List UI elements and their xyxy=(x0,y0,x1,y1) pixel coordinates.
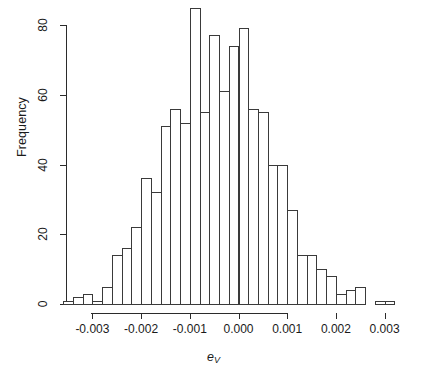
x-tick--0.002 xyxy=(141,313,142,319)
histogram-bar xyxy=(316,269,327,305)
histogram-bar xyxy=(355,287,366,305)
histogram-bar xyxy=(209,35,220,305)
x-axis-label: eV xyxy=(0,350,427,365)
histogram-bar xyxy=(161,126,172,305)
x-tick-0.003 xyxy=(385,313,386,319)
histogram-bar xyxy=(239,28,250,305)
histogram-bar xyxy=(102,287,113,305)
histogram-bar xyxy=(141,178,152,305)
y-tick-20 xyxy=(60,234,66,235)
histogram-bar xyxy=(73,297,84,305)
x-tick-label: 0.003 xyxy=(355,322,415,336)
histogram-bar xyxy=(346,290,357,305)
y-tick-label: 60 xyxy=(36,82,50,108)
histogram-bar xyxy=(307,255,318,305)
histogram-bar xyxy=(326,276,337,305)
y-tick-label: 40 xyxy=(36,152,50,178)
histogram-bar xyxy=(258,112,269,305)
x-tick-0.002 xyxy=(336,313,337,319)
histogram-bar xyxy=(170,109,181,305)
histogram-bar xyxy=(151,192,162,305)
y-tick-label-wrap: 0 xyxy=(30,297,56,311)
histogram-bar xyxy=(131,227,142,305)
histogram-bar xyxy=(297,255,308,305)
y-tick-0 xyxy=(60,304,66,305)
histogram-bar xyxy=(200,112,211,305)
y-tick-60 xyxy=(60,95,66,96)
x-tick-0.000 xyxy=(239,313,240,319)
histogram-bar xyxy=(385,301,396,305)
histogram-bar xyxy=(277,165,288,306)
histogram-bar xyxy=(112,255,123,305)
x-axis-label-subscript: V xyxy=(214,355,220,365)
histogram-figure: Frequency 020406080 -0.003-0.002-0.0010.… xyxy=(0,0,427,382)
x-tick--0.003 xyxy=(92,313,93,319)
y-tick-40 xyxy=(60,165,66,166)
y-tick-label-wrap: 40 xyxy=(30,158,56,172)
y-tick-80 xyxy=(60,25,66,26)
x-tick-0.001 xyxy=(287,313,288,319)
y-axis-line xyxy=(66,25,67,305)
y-tick-label: 20 xyxy=(36,221,50,247)
histogram-bar xyxy=(248,109,259,305)
y-axis-label: Frequency xyxy=(15,67,29,187)
x-axis-label-base: e xyxy=(207,350,214,364)
histogram-bar xyxy=(122,248,133,305)
histogram-bar xyxy=(83,294,94,305)
histogram-bar xyxy=(336,294,347,305)
histogram-bar xyxy=(180,123,191,305)
histogram-bar xyxy=(287,210,298,305)
y-tick-label-wrap: 20 xyxy=(30,227,56,241)
y-tick-label: 0 xyxy=(36,291,50,317)
histogram-bar xyxy=(268,165,279,306)
histogram-bar xyxy=(190,8,201,305)
histogram-bar xyxy=(92,301,103,305)
histogram-bar xyxy=(375,301,386,305)
histogram-bar xyxy=(229,46,240,305)
y-tick-label: 80 xyxy=(36,12,50,38)
histogram-bar xyxy=(219,91,230,305)
y-tick-label-wrap: 80 xyxy=(30,18,56,32)
y-tick-label-wrap: 60 xyxy=(30,88,56,102)
x-tick--0.001 xyxy=(190,313,191,319)
